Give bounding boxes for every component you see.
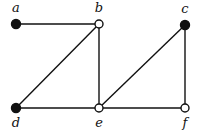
node-label-d: d (12, 115, 20, 130)
node-label-e: e (95, 115, 103, 130)
nodes-group (12, 20, 190, 113)
edge-b-d (16, 24, 99, 108)
node-label-a: a (12, 0, 20, 15)
node-e (95, 104, 103, 112)
node-d (12, 104, 21, 113)
node-label-b: b (95, 0, 103, 15)
node-b (95, 20, 103, 28)
graph-diagram: abcdef (0, 0, 202, 136)
node-label-f: f (182, 115, 190, 130)
node-a (12, 20, 21, 29)
edge-e-c (99, 25, 185, 108)
node-label-c: c (181, 1, 189, 16)
edges-group (16, 24, 185, 108)
node-f (181, 104, 189, 112)
node-c (181, 21, 190, 30)
